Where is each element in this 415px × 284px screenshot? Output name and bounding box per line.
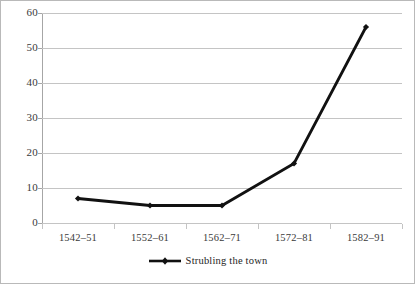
chart-legend: Strubling the town <box>1 255 414 266</box>
y-tick-label-wrap-30: 30 <box>1 111 38 123</box>
legend-label-strubling-the-town: Strubling the town <box>186 255 268 266</box>
y-tick-label-wrap-10: 10 <box>1 181 38 193</box>
x-tick-mark-1 <box>114 224 115 229</box>
x-tick-mark-2 <box>186 224 187 229</box>
data-point-1 <box>147 202 153 208</box>
series-polyline <box>78 27 366 206</box>
y-tick-label-wrap-20: 20 <box>1 146 38 158</box>
y-tick-label-50: 50 <box>4 41 38 53</box>
y-tick-label-wrap-60: 60 <box>1 6 38 18</box>
legend-line-marker-icon <box>148 256 182 266</box>
y-tick-label-wrap-50: 50 <box>1 41 38 53</box>
x-tick-mark-0 <box>42 224 43 229</box>
y-tick-label-60: 60 <box>4 6 38 18</box>
series-line-strubling-the-town <box>42 13 402 223</box>
y-tick-label-wrap-0: 0 <box>1 216 38 228</box>
y-tick-label-30: 30 <box>4 111 38 123</box>
x-tick-mark-5 <box>402 224 403 229</box>
x-tick-label-4: 1582–91 <box>321 232 411 243</box>
x-tick-mark-4 <box>330 224 331 229</box>
y-tick-label-20: 20 <box>4 146 38 158</box>
y-tick-label-10: 10 <box>4 181 38 193</box>
y-tick-label-0: 0 <box>4 216 38 228</box>
plot-area <box>42 13 402 223</box>
y-tick-label-wrap-40: 40 <box>1 76 38 88</box>
y-tick-label-40: 40 <box>4 76 38 88</box>
gridline-0 <box>42 223 402 224</box>
x-tick-mark-3 <box>258 224 259 229</box>
data-point-0 <box>75 195 81 201</box>
chart-figure: 0102030405060 1542–511552–611562–711572–… <box>0 0 415 284</box>
